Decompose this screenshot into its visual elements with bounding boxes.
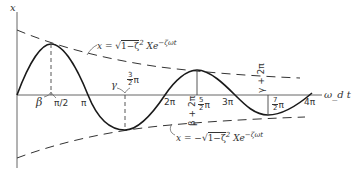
beta-plus-2pi-label: β + 2π xyxy=(187,96,197,126)
gamma-label: γ xyxy=(111,80,117,90)
upper-envelope-label: x = √1−ζ2 Xe−ζωt xyxy=(97,38,177,51)
y-axis-label: x xyxy=(10,3,16,13)
four-pi-label: 4π xyxy=(304,98,315,107)
lower-envelope-label: x = −√1−ζ2 Xe−ζωt xyxy=(176,130,263,143)
seven-halves-pi-label: 72π xyxy=(272,97,284,112)
three-pi-label: 3π xyxy=(222,98,233,107)
five-halves-pi-label: 52π xyxy=(198,97,210,112)
three-halves-pi-label: 32π xyxy=(127,72,139,87)
gamma-plus-2pi-label: γ + 2π xyxy=(256,63,266,93)
two-pi-label: 2π xyxy=(164,98,175,107)
beta-label: β xyxy=(36,98,42,108)
x-axis-label: ω_d t xyxy=(324,90,351,100)
lower-envelope-leader xyxy=(170,124,175,135)
pi-label: π xyxy=(81,99,86,108)
damped-oscillation-diagram xyxy=(0,0,353,177)
response-curve xyxy=(17,44,312,130)
pi-over-2-label: π/2 xyxy=(54,99,68,108)
gamma-leader xyxy=(117,88,130,93)
